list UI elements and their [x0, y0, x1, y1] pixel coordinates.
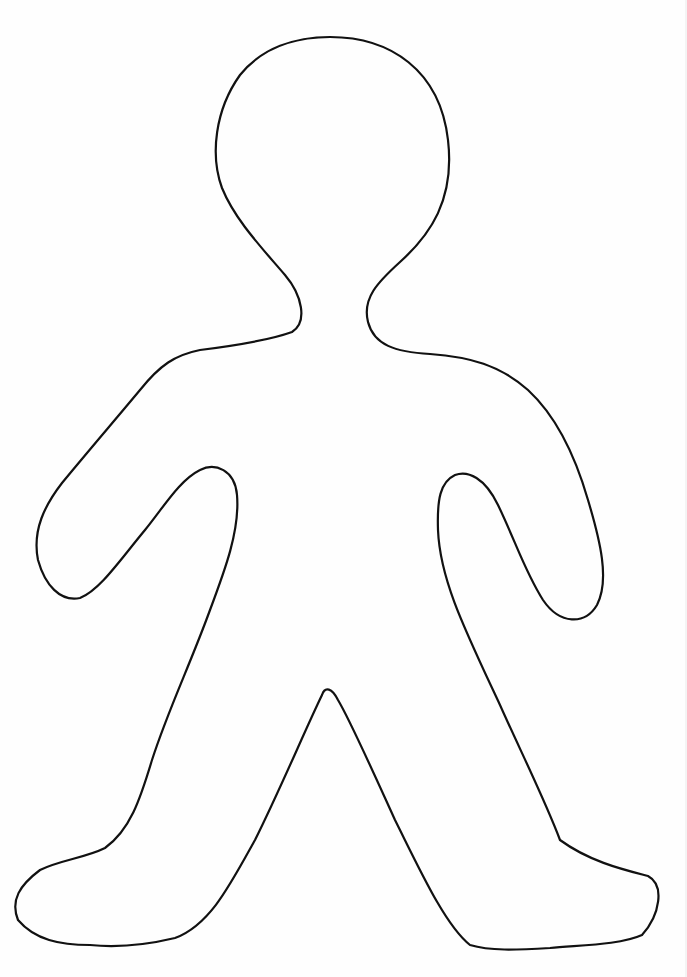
person-outline-figure	[0, 0, 687, 977]
coloring-page	[0, 0, 687, 977]
figure-outline-path	[15, 37, 658, 950]
